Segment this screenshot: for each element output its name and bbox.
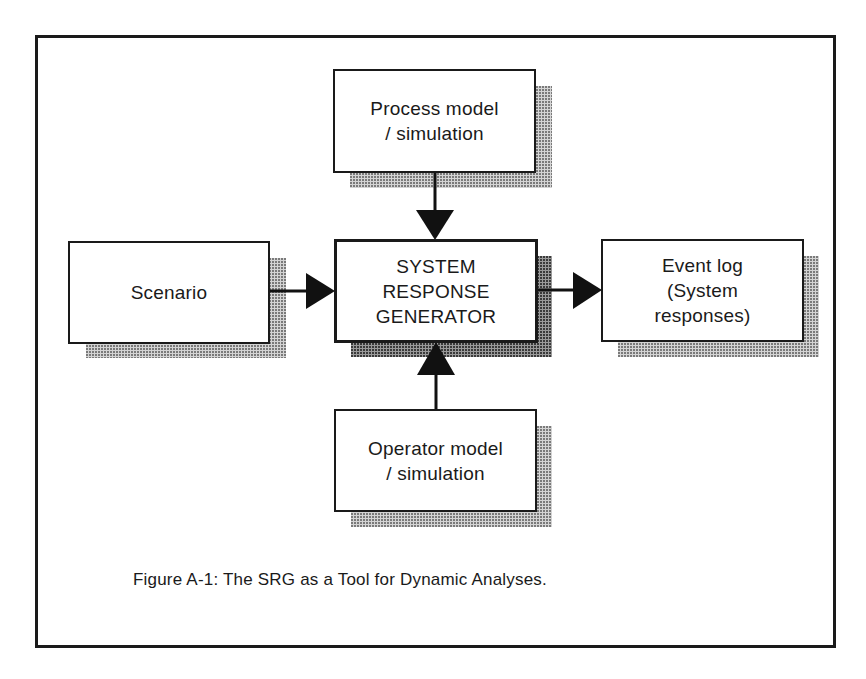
scenario-box: Scenario (68, 241, 270, 344)
process-model-box: Process model / simulation (333, 69, 536, 173)
srg-label: SYSTEM RESPONSE GENERATOR (376, 254, 496, 329)
arrow-process-to-srg (416, 172, 454, 240)
figure-caption: Figure A-1: The SRG as a Tool for Dynami… (133, 570, 547, 590)
operator-model-label: Operator model / simulation (368, 436, 503, 486)
scenario-label: Scenario (131, 280, 208, 305)
event-log-box: Event log (System responses) (601, 239, 804, 342)
arrow-operator-to-srg (417, 342, 455, 409)
arrow-srg-to-event-log (537, 272, 602, 309)
operator-model-box: Operator model / simulation (334, 409, 537, 512)
process-model-label: Process model / simulation (370, 96, 498, 146)
system-response-generator-box: SYSTEM RESPONSE GENERATOR (334, 239, 538, 343)
arrow-scenario-to-srg (269, 273, 335, 309)
event-log-label: Event log (System responses) (655, 253, 751, 328)
